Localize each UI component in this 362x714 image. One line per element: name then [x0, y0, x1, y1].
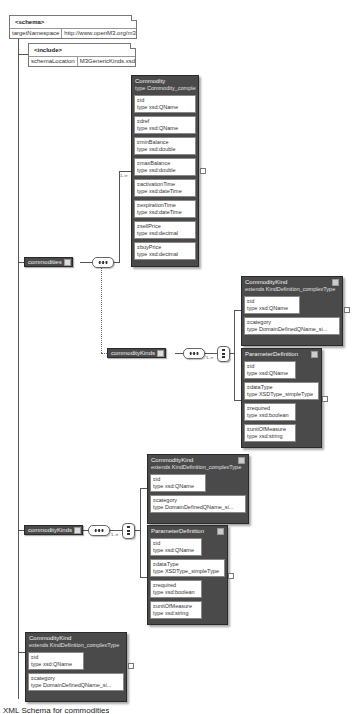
- attribute-maxbalance: maxBalancetype xsd:double: [134, 158, 196, 176]
- attribute-id: idtype xsd:QName: [150, 538, 202, 556]
- commodity-cardinality: 1..∞: [120, 173, 127, 178]
- commodities-element[interactable]: commodities: [24, 257, 73, 267]
- attribute-sellprice: sellPricetype xsd:decimal: [134, 221, 196, 239]
- attribute-required: requiredtype xsd:boolean: [244, 403, 296, 421]
- schema-title: <schema>: [10, 16, 136, 29]
- include-connector: [18, 54, 28, 55]
- commodity-kind-title: CommodityKind: [28, 633, 124, 642]
- choice-compositor-icon[interactable]: [122, 523, 135, 539]
- attribute-id: idtype xsd:QName: [244, 296, 300, 314]
- collapse-icon[interactable]: [332, 279, 339, 286]
- commodity-expand-icon[interactable]: [200, 168, 206, 174]
- outer-to-commoditykind-line: [140, 488, 147, 489]
- inner-to-commoditykind-line: [234, 310, 241, 311]
- commodity-kinds-inner-label: commodityKinds: [111, 350, 155, 356]
- parameter-definition-panel-outer[interactable]: ParameterDefinition idtype xsd:QName dat…: [147, 525, 228, 625]
- commodity-type-subtitle: type Commodity_complexType: [134, 85, 196, 94]
- commodity-type-title: Commodity: [134, 76, 196, 85]
- commodity-kinds-outer-element[interactable]: commodityKinds: [24, 525, 83, 535]
- include-attr-row: schemaLocation M3GenericKinds.xsd: [29, 57, 135, 66]
- attribute-category: categorytype DomainDefinedQName_si...: [28, 673, 124, 691]
- attribute-datatype: dataTypetype XSDType_simpleType: [150, 559, 225, 577]
- inner-to-paramdef-line: [234, 400, 241, 401]
- choice-compositor-icon[interactable]: [217, 346, 230, 362]
- commodity-kind-subtitle: extends KindDefinition_complexType: [150, 464, 246, 473]
- collapse-toggle-icon[interactable]: [64, 259, 71, 266]
- dogear-corner: [130, 43, 136, 49]
- commodity-type-panel[interactable]: Commodity type Commodity_complexType idt…: [131, 75, 199, 267]
- figure-caption: XML Schema for commodities: [3, 706, 109, 714]
- parameter-definition-expand-icon[interactable]: [322, 396, 328, 402]
- commodity-kind-title: CommodityKind: [244, 277, 340, 286]
- attribute-datatype: dataTypetype XSDType_simpleType: [244, 382, 319, 400]
- sequence-compositor-icon[interactable]: [92, 257, 114, 268]
- commodity-kinds-dotted-branch: [101, 267, 102, 353]
- parameter-definition-title: ParameterDefinition: [244, 349, 319, 360]
- parameter-definition-title: ParameterDefinition: [150, 526, 225, 537]
- commodities-to-seq-line: [80, 262, 92, 263]
- attribute-id: idtype xsd:QName: [244, 361, 296, 379]
- attribute-buyprice: buyPricetype xsd:decimal: [134, 242, 196, 260]
- collapse-icon[interactable]: [238, 457, 245, 464]
- commodity-kinds-inner-element[interactable]: commodityKinds: [107, 348, 166, 358]
- include-node[interactable]: <include> schemaLocation M3GenericKinds.…: [28, 43, 136, 67]
- commodity-branch-hline: [119, 171, 131, 172]
- sequence-compositor-icon[interactable]: [88, 525, 110, 536]
- dogear-corner: [131, 15, 137, 21]
- commodity-kind-expand-icon[interactable]: [344, 307, 350, 313]
- inner-choice-vline: [234, 310, 235, 400]
- attribute-required: requiredtype xsd:boolean: [150, 580, 202, 598]
- commodity-kind-expand-icon[interactable]: [128, 663, 134, 669]
- commodity-kind-title: CommodityKind: [150, 455, 246, 464]
- schema-node[interactable]: <schema> targetNamespace http://www.open…: [9, 15, 137, 39]
- commodity-kind-subtitle: extends KindDefinition_complexType: [28, 642, 124, 651]
- attribute-id: idtype xsd:QName: [134, 95, 196, 113]
- include-title: <include>: [29, 44, 135, 57]
- commodity-kind-root-connector: [18, 652, 25, 653]
- attribute-dref: dreftype xsd:QName: [134, 116, 196, 134]
- schema-trunk-line: [18, 29, 19, 699]
- attribute-unitofmeasure: unitOfMeasuretype xsd:string: [150, 601, 202, 619]
- collapse-icon[interactable]: [217, 528, 224, 535]
- attribute-id: idtype xsd:QName: [28, 652, 84, 670]
- parameter-definition-panel-inner[interactable]: ParameterDefinition idtype xsd:QName dat…: [241, 348, 322, 448]
- attribute-category: categorytype DomainDefinedQName_si...: [150, 495, 246, 513]
- include-attr-value: M3GenericKinds.xsd: [78, 57, 137, 66]
- attribute-activationtime: activationTimetype xsd:dateTime: [134, 179, 196, 197]
- schema-attr-name: targetNamespace: [10, 29, 62, 38]
- schema-attr-row: targetNamespace http://www.openM3.org/m3: [10, 29, 136, 38]
- attribute-id: idtype xsd:QName: [150, 474, 206, 492]
- commodity-kind-panel-inner[interactable]: CommodityKind extends KindDefinition_com…: [241, 276, 343, 346]
- include-attr-name: schemaLocation: [29, 57, 78, 66]
- outer-seq-to-choice-line: [109, 530, 122, 531]
- attribute-expirationtime: expirationTimetype xsd:dateTime: [134, 200, 196, 218]
- parameter-definition-expand-icon[interactable]: [228, 573, 234, 579]
- commodity-kind-panel-outer[interactable]: CommodityKind extends KindDefinition_com…: [147, 454, 249, 524]
- commodity-kinds-outer-label: commodityKinds: [28, 527, 72, 533]
- sequence-compositor-icon[interactable]: [183, 348, 205, 359]
- collapse-icon[interactable]: [311, 351, 318, 358]
- inner-kinds-cardinality: 1..∞: [206, 355, 213, 360]
- outer-choice-vline: [140, 488, 141, 578]
- collapse-toggle-icon[interactable]: [74, 527, 81, 534]
- commodity-kind-subtitle: extends KindDefinition_complexType: [244, 286, 340, 295]
- commodity-kind-panel-root[interactable]: CommodityKind extends KindDefinition_com…: [25, 632, 127, 702]
- collapse-toggle-icon[interactable]: [157, 350, 164, 357]
- attribute-category: categorytype DomainDefinedQName_si...: [244, 317, 340, 335]
- outer-to-paramdef-line: [140, 577, 147, 578]
- inner-kinds-to-seq-line: [175, 353, 183, 354]
- inner-seq-to-choice-line: [204, 353, 217, 354]
- attribute-unitofmeasure: unitOfMeasuretype xsd:string: [244, 424, 296, 442]
- outer-kinds-cardinality: 1..∞: [111, 532, 118, 537]
- attribute-minbalance: minBalancetype xsd:double: [134, 137, 196, 155]
- schema-attr-value: http://www.openM3.org/m3: [62, 29, 137, 38]
- commodity-branch-vline: [119, 171, 120, 263]
- commodities-label: commodities: [28, 259, 62, 265]
